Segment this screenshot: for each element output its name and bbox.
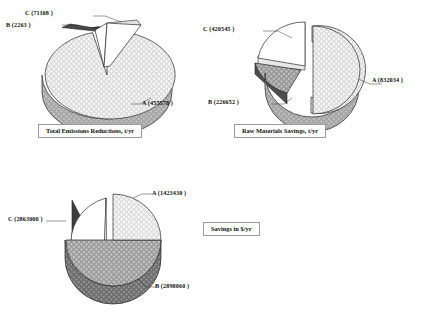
slice-label-b-1: B (2263 ) (6, 22, 31, 28)
chart-savings-in-dollars: A (1423430 ) C (2863000 ) B (2898060 ) S… (0, 158, 428, 313)
slice-label-c-3: C (2863000 ) (8, 216, 43, 222)
figure-pie-chart-set: C (71108 ) B (2263 ) A (455578 ) Total E… (0, 0, 428, 313)
chart-total-emissions-reductions: C (71108 ) B (2263 ) A (455578 ) Total E… (0, 0, 214, 156)
slice-c-top-2 (258, 22, 305, 66)
pie-svg-2 (200, 0, 428, 130)
caption-savings-in-dollars: Savings in $/yr (203, 222, 260, 236)
slice-label-c-1: C (71108 ) (25, 10, 53, 16)
slice-label-c-2: C (420545 ) (203, 26, 234, 32)
pie-graphic-2 (200, 0, 428, 130)
pie-svg-1 (0, 0, 214, 130)
slice-label-a-2: A (832034 ) (372, 77, 403, 83)
slice-label-a-1: A (455578 ) (142, 100, 173, 106)
slice-a-top-3 (113, 194, 161, 240)
slice-label-a-3: A (1423430 ) (152, 190, 186, 196)
leader-line-a-3 (133, 194, 152, 198)
caption-total-emissions-reductions: Total Emissions Reductions, t/yr (38, 124, 142, 138)
chart-raw-materials-savings: C (420545 ) B (226652 ) A (832034 ) Raw … (200, 0, 428, 156)
pie-graphic-1 (0, 0, 214, 130)
slice-label-b-2: B (226652 ) (208, 99, 239, 105)
slice-label-b-3: B (2898060 ) (155, 283, 189, 289)
leader-line-c-1 (93, 16, 121, 22)
caption-raw-materials-savings: Raw Materials Savings, t/yr (234, 124, 326, 138)
